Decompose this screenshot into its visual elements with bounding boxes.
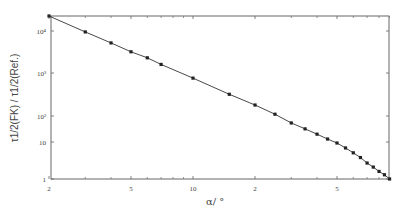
data-point <box>365 161 368 164</box>
data-point <box>109 41 112 44</box>
data-point <box>84 30 87 33</box>
data-point <box>253 103 256 106</box>
chart-plot: 251025 11010²10³10⁴ <box>0 0 408 213</box>
svg-text:2: 2 <box>253 185 257 193</box>
y-axis-ticks: 11010²10³10⁴ <box>37 28 389 184</box>
data-point <box>129 50 132 53</box>
svg-text:10³: 10³ <box>37 70 46 78</box>
svg-text:10: 10 <box>39 139 47 147</box>
data-point <box>146 56 149 59</box>
data-point <box>273 113 276 116</box>
data-point <box>228 93 231 96</box>
svg-text:5: 5 <box>129 185 133 193</box>
svg-text:10: 10 <box>190 185 198 193</box>
data-point <box>159 63 162 66</box>
data-point <box>344 146 347 149</box>
data-point <box>388 177 391 180</box>
data-point <box>303 127 306 130</box>
data-point <box>47 14 50 17</box>
data-point <box>315 133 318 136</box>
data-point <box>290 121 293 124</box>
y-axis-label-text: τ1/2(FK) / τ1/2(Ref.) <box>9 54 20 142</box>
svg-text:10²: 10² <box>37 113 46 121</box>
data-point <box>335 141 338 144</box>
svg-text:2: 2 <box>47 185 51 193</box>
x-axis-ticks: 251025 <box>47 16 389 193</box>
svg-text:1: 1 <box>43 176 47 184</box>
data-point <box>359 156 362 159</box>
data-point <box>191 77 194 80</box>
data-point <box>326 137 329 140</box>
x-axis-label: α/ ° <box>206 196 224 207</box>
plot-frame <box>51 16 389 179</box>
svg-text:5: 5 <box>335 185 339 193</box>
data-point <box>352 151 355 154</box>
data-point <box>377 170 380 173</box>
data-point <box>383 173 386 176</box>
data-point <box>372 165 375 168</box>
data-series <box>47 14 391 180</box>
svg-text:10⁴: 10⁴ <box>37 28 47 36</box>
